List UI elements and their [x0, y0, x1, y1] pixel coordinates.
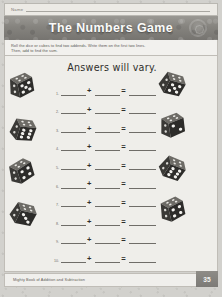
work-area: Answers will vary. 1.+=2.+=3.+=4.+=5.+=6… [4, 56, 218, 272]
instructions-block: Roll the dice or cubes to find two adden… [4, 40, 218, 56]
addend-1-blank[interactable] [61, 206, 86, 207]
answers-will-vary-note: Answers will vary. [5, 62, 218, 73]
addend-2-blank[interactable] [95, 188, 120, 189]
addend-2-blank[interactable] [95, 132, 120, 133]
name-label: Name [11, 7, 23, 12]
instruction-line: Then, add to find the sum. [11, 48, 211, 53]
equals-icon: = [120, 125, 128, 134]
problem-row: 6.+= [52, 171, 174, 190]
dice-icon [4, 155, 40, 191]
dice-icon [4, 70, 39, 104]
circle-emblem-icon [189, 19, 207, 37]
plus-icon: + [86, 218, 94, 227]
sum-blank[interactable] [129, 243, 156, 244]
plus-icon: + [86, 199, 94, 208]
title-banner: The Numbers Game [4, 16, 218, 40]
equals-icon: = [120, 87, 128, 96]
problem-row: 5.+= [52, 152, 174, 171]
addend-1-blank[interactable] [61, 95, 86, 96]
problem-row: 9.+= [52, 227, 174, 246]
equals-icon: = [120, 255, 128, 264]
addend-1-blank[interactable] [61, 225, 86, 226]
addend-2-blank[interactable] [95, 225, 120, 226]
equals-icon: = [120, 199, 128, 208]
dice-icon [5, 115, 40, 147]
plus-icon: + [86, 255, 94, 264]
addend-2-blank[interactable] [95, 206, 120, 207]
plus-icon: + [86, 125, 94, 134]
problem-row: 1.+= [52, 78, 174, 97]
problem-number: 10. [52, 259, 59, 264]
sum-blank[interactable] [129, 95, 156, 96]
worksheet-page: Name The Numbers Game Roll the dice or c… [0, 0, 222, 297]
sum-blank[interactable] [129, 225, 156, 226]
problem-row: 7.+= [52, 190, 174, 209]
equals-icon: = [120, 162, 128, 171]
plus-icon: + [86, 180, 94, 189]
footer-book-title: Mighty Book of Addition and Subtraction [13, 278, 85, 282]
page-title: The Numbers Game [49, 21, 173, 35]
page-number-tab: 35 [196, 271, 218, 287]
sum-blank[interactable] [129, 113, 156, 114]
equals-icon: = [120, 180, 128, 189]
equals-icon: = [120, 218, 128, 227]
sum-blank[interactable] [129, 132, 156, 133]
addend-1-blank[interactable] [61, 132, 86, 133]
addend-2-blank[interactable] [95, 169, 120, 170]
plus-icon: + [86, 162, 94, 171]
plus-icon: + [86, 143, 94, 152]
addend-1-blank[interactable] [61, 188, 86, 189]
addend-2-blank[interactable] [95, 150, 120, 151]
equals-icon: = [120, 143, 128, 152]
dice-icon [4, 198, 41, 233]
addend-1-blank[interactable] [61, 169, 86, 170]
page-number: 35 [203, 276, 211, 283]
addend-1-blank[interactable] [61, 150, 86, 151]
addend-1-blank[interactable] [61, 113, 86, 114]
addend-1-blank[interactable] [61, 243, 86, 244]
plus-icon: + [86, 106, 94, 115]
name-write-line[interactable] [26, 11, 210, 12]
problem-list: 1.+=2.+=3.+=4.+=5.+=6.+=7.+=8.+=9.+=10.+… [52, 78, 174, 264]
equals-icon: = [120, 106, 128, 115]
addend-2-blank[interactable] [95, 262, 120, 263]
addend-2-blank[interactable] [95, 95, 120, 96]
footer-bar: Mighty Book of Addition and Subtraction [4, 273, 218, 287]
equals-icon: = [120, 236, 128, 245]
problem-row: 4.+= [52, 134, 174, 153]
sum-blank[interactable] [129, 206, 156, 207]
addend-1-blank[interactable] [61, 262, 86, 263]
addend-2-blank[interactable] [95, 113, 120, 114]
sum-blank[interactable] [129, 169, 156, 170]
problem-row: 10.+= [52, 245, 174, 264]
name-field-row[interactable]: Name [4, 3, 218, 16]
problem-row: 8.+= [52, 208, 174, 227]
plus-icon: + [86, 236, 94, 245]
problem-row: 2.+= [52, 97, 174, 116]
plus-icon: + [86, 87, 94, 96]
addend-2-blank[interactable] [95, 243, 120, 244]
sum-blank[interactable] [129, 150, 156, 151]
sum-blank[interactable] [129, 188, 156, 189]
problem-row: 3.+= [52, 115, 174, 134]
sum-blank[interactable] [129, 262, 156, 263]
